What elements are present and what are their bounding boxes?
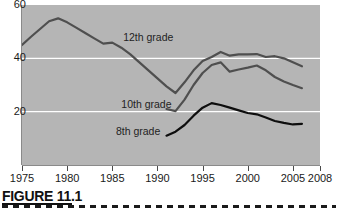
x-tick-label: 1990 — [145, 172, 169, 184]
figure-caption-row: FIGURE 11.1 — [0, 188, 338, 210]
figure-container: 204060 19751980198519901995200020052008 … — [0, 0, 338, 214]
y-tick-label: 40 — [14, 52, 26, 63]
x-tick-label: 2008 — [308, 172, 332, 184]
x-tick-mark — [248, 166, 249, 171]
x-tick-mark — [203, 166, 204, 171]
x-tick-label: 1975 — [10, 172, 34, 184]
series-label-3: 8th grade — [116, 126, 160, 137]
y-axis-line — [21, 5, 22, 165]
x-tick-label: 1980 — [55, 172, 79, 184]
figure-caption: FIGURE 11.1 — [2, 188, 82, 204]
series-label-1: 12th grade — [123, 32, 173, 43]
x-tick-mark — [22, 166, 23, 171]
series-line-2 — [166, 62, 301, 111]
series-line-3 — [166, 103, 301, 136]
series-label-2: 10th grade — [121, 99, 171, 110]
x-tick-label: 2005 — [281, 172, 305, 184]
chart-container: 204060 19751980198519901995200020052008 … — [0, 0, 338, 186]
x-tick-label: 2000 — [236, 172, 260, 184]
plot-area — [22, 5, 320, 165]
caption-dashed-rule — [2, 205, 336, 208]
x-tick-label: 1995 — [190, 172, 214, 184]
series-line-1 — [22, 18, 302, 93]
x-tick-mark — [320, 166, 321, 171]
x-tick-mark — [157, 166, 158, 171]
x-tick-mark — [293, 166, 294, 171]
x-tick-label: 1985 — [100, 172, 124, 184]
y-tick-label: 60 — [14, 0, 26, 10]
y-tick-label: 20 — [14, 106, 26, 117]
x-tick-mark — [112, 166, 113, 171]
chart-svg — [22, 5, 320, 165]
x-tick-mark — [67, 166, 68, 171]
